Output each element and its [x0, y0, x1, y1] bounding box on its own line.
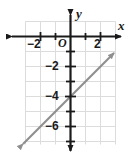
x-axis-name-label: x [118, 19, 125, 32]
y-axis-tick-label-neg6: −6 [45, 120, 59, 132]
y-axis-tick-label-neg4: −4 [45, 90, 59, 102]
x-axis-tick-label-pos2: 2 [94, 38, 101, 50]
graph-canvas [0, 0, 131, 153]
y-axis-name-label: y [76, 7, 82, 20]
coordinate-plane-graph: −2 2 −2 −4 −6 O x y [0, 0, 131, 153]
y-axis-tick-label-neg2: −2 [45, 60, 59, 72]
origin-label: O [58, 37, 67, 49]
x-axis-tick-label-neg2: −2 [27, 38, 41, 50]
